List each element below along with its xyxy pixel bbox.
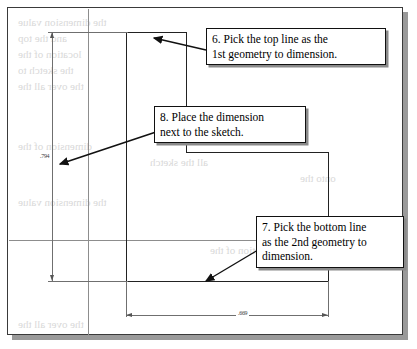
dimension-arrow-up-icon [50,32,54,38]
vertical-dimension-text[interactable]: .794 [40,153,49,159]
dimension-arrow-down-icon [50,275,54,281]
callout-7-line-1: 7. Pick the bottom line [262,220,398,235]
callout-7[interactable]: 7. Pick the bottom line as the 2nd geome… [256,216,404,268]
top-geometry-line[interactable] [126,32,186,33]
dimension-arrow-right-icon [322,313,328,317]
vertical-dimension-line[interactable] [52,32,53,281]
dimension-arrow-left-icon [126,313,132,317]
witness-line-bottom [48,281,128,282]
callout-7-line-2: as the 2nd geometry to [262,235,398,250]
callout-7-line-3: dimension. [262,249,398,264]
bottom-geometry-line[interactable] [126,281,328,282]
construction-line-vertical-left [88,9,89,335]
witness-line-right [328,281,329,317]
callout-6-line-2: 1st geometry to dimension. [212,47,380,62]
callout-8-line-2: next to the sketch. [160,125,300,140]
profile-step1-horizontal [186,152,328,153]
profile-left-vertical [126,32,127,282]
callout-8[interactable]: 8. Place the dimension next to the sketc… [154,106,306,143]
callout-6[interactable]: 6. Pick the top line as the 1st geometry… [206,28,386,65]
callout-8-line-1: 8. Place the dimension [160,110,300,125]
horizontal-dimension-text[interactable]: .669 [236,310,249,316]
callout-6-line-1: 6. Pick the top line as the [212,32,380,47]
figure-canvas: the dimension value and the top location… [0,0,417,349]
horizontal-dimension-line[interactable] [126,315,328,316]
witness-line-top [48,32,128,33]
